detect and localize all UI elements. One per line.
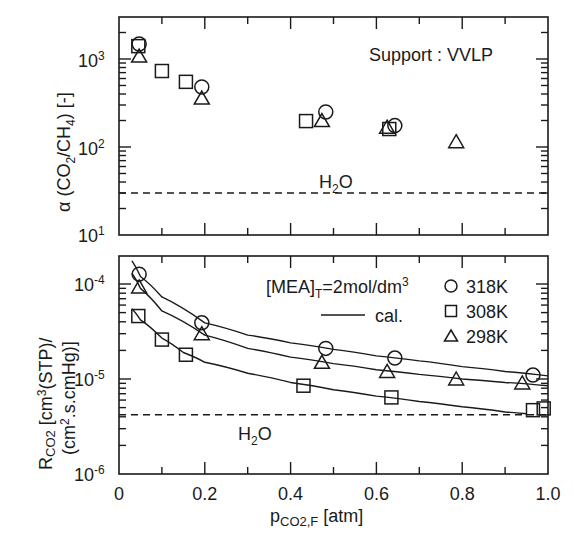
legend-298k-label: 298K xyxy=(466,327,508,347)
top-panel: 101 102 103 α (CO2/CH4) [-] Support : VV… xyxy=(54,17,548,246)
legend-318k-label: 318K xyxy=(466,277,508,297)
bottom-x-axis-label: pCO2,F [atm] xyxy=(270,506,363,529)
x-tick-label: 0.6 xyxy=(364,484,389,504)
x-tick-label: 0 xyxy=(114,484,124,504)
data-point-308K xyxy=(179,75,192,88)
bottom-panel: 10-6 10-5 10-4 00.20.40.60.81.0 pCO2,F [… xyxy=(35,256,561,529)
top-y-axis-label: α (CO2/CH4) [-] xyxy=(54,92,78,212)
x-tick-label: 0.2 xyxy=(192,484,217,504)
bottom-y-axis-label-line2: (cm2.s.cmHg)] xyxy=(58,341,79,455)
bottom-ytick-label-3: 10-4 xyxy=(74,273,105,295)
legend-square-marker-icon xyxy=(446,306,457,317)
legend-cal-label: cal. xyxy=(375,306,403,326)
data-point-298K xyxy=(449,135,464,148)
data-point-308K xyxy=(155,333,168,346)
data-point-318K xyxy=(319,105,333,119)
data-point-298K xyxy=(314,114,329,127)
figure: 101 102 103 α (CO2/CH4) [-] Support : VV… xyxy=(0,0,574,546)
support-annotation: Support : VVLP xyxy=(369,45,493,65)
data-point-298K xyxy=(194,91,209,104)
legend-triangle-marker-icon xyxy=(445,330,458,341)
data-point-308K xyxy=(300,115,313,128)
x-tick-label: 1.0 xyxy=(535,484,560,504)
bottom-ytick-label-1: 10-6 xyxy=(74,463,105,485)
data-point-308K xyxy=(155,65,168,78)
legend-circle-marker-icon xyxy=(445,280,457,292)
top-ytick-label-1: 101 xyxy=(78,224,105,246)
bottom-y-axis-label-line1: RCO2 [cm3(STP)/ xyxy=(35,338,58,470)
top-ytick-label-3: 103 xyxy=(78,49,105,71)
bottom-h2o-label: H2O xyxy=(238,424,272,448)
x-tick-label: 0.8 xyxy=(450,484,475,504)
legend-308k-label: 308K xyxy=(466,302,508,322)
x-tick-label: 0.4 xyxy=(278,484,303,504)
mea-annotation: [MEA]T=2mol/dm3 xyxy=(266,275,409,301)
bottom-xtick-labels: 00.20.40.60.81.0 xyxy=(114,484,561,504)
data-point-298K xyxy=(515,376,530,389)
top-ytick-label-2: 102 xyxy=(78,137,105,159)
